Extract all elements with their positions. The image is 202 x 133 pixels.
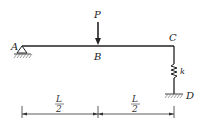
dimension-label-1: L 2: [55, 94, 64, 114]
label-k: k: [180, 67, 185, 76]
svg-text:2: 2: [131, 104, 138, 114]
dimension-label-2: L 2: [131, 94, 140, 114]
label-p: P: [93, 9, 101, 20]
label-d: D: [185, 90, 194, 101]
label-a: A: [10, 41, 18, 52]
load-arrow-icon: [95, 22, 101, 45]
beam-diagram: A P B C k D L: [0, 0, 202, 133]
label-c: C: [169, 32, 177, 43]
ground-support-icon: [165, 94, 183, 98]
svg-text:L: L: [131, 94, 138, 104]
label-b: B: [93, 51, 101, 62]
dimension-lines: [22, 106, 174, 118]
svg-text:2: 2: [55, 104, 62, 114]
spring-icon: [171, 64, 177, 78]
diagram-canvas: A P B C k D L: [0, 0, 202, 133]
svg-text:L: L: [55, 94, 62, 104]
